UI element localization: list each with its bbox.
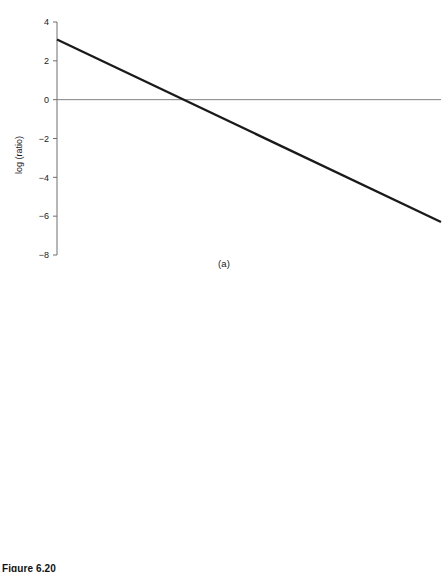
y-tick-label: −4 — [39, 173, 49, 183]
y-tick-label: −6 — [39, 211, 49, 221]
panel-a-series-group — [57, 39, 441, 222]
panel-b-plot: 1086420−2−4−6−8−10 Second to thirdFirst … — [0, 285, 448, 572]
y-tick-label: 4 — [44, 17, 49, 27]
panel-a-caption: (a) — [0, 258, 448, 269]
y-axis-ticks — [53, 22, 57, 255]
data-line — [57, 39, 441, 222]
y-tick-label: −2 — [39, 134, 49, 144]
y-axis-tick-labels: 420−2−4−6−8 — [39, 17, 49, 260]
panel-a-axis-group: 420−2−4−6−8 — [39, 17, 57, 260]
chart-panel-a: 420−2−4−6−8 log (ratio) (a) — [0, 0, 448, 285]
chart-panel-b: 1086420−2−4−6−8−10 Second to thirdFirst … — [0, 285, 448, 572]
y-tick-label: 0 — [44, 95, 49, 105]
figure-number-label: Figure 6.20 — [2, 563, 56, 572]
y-tick-label: 2 — [44, 56, 49, 66]
panel-a-plot: 420−2−4−6−8 log (ratio) — [0, 0, 448, 285]
figure-container: 420−2−4−6−8 log (ratio) (a) 1086420−2−4−… — [0, 0, 448, 572]
y-axis-title: log (ratio) — [14, 136, 24, 174]
